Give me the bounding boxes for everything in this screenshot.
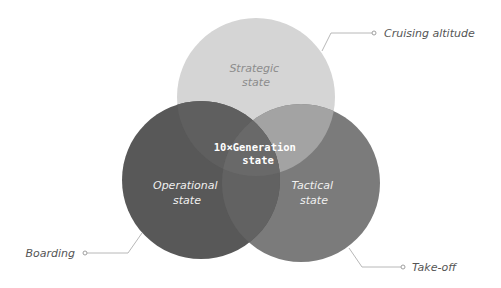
connector-take-off: [349, 248, 402, 267]
connector-dot-cruising-altitude: [372, 31, 376, 35]
callout-boarding: Boarding: [25, 247, 75, 260]
connector-dot-boarding: [83, 251, 87, 255]
callout-take-off: Take-off: [412, 261, 457, 274]
connector-cruising-altitude: [322, 33, 373, 51]
connector-boarding: [86, 233, 142, 253]
venn-diagram: Strategic state Operational state Tactic…: [0, 0, 501, 288]
connector-dot-take-off: [401, 265, 405, 269]
callout-cruising-altitude: Cruising altitude: [384, 27, 475, 40]
